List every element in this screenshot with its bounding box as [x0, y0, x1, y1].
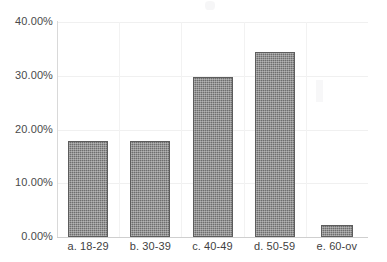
scan-artifact	[205, 1, 215, 10]
x-axis-tick-labels: a. 18-29b. 30-39c. 40-49d. 50-59e. 60-ov	[57, 240, 368, 260]
bar	[130, 141, 170, 237]
y-axis-tick-label: 30.00%	[1, 69, 53, 81]
x-axis-tick-label: a. 18-29	[57, 240, 119, 252]
bar-chart: 40.00%30.00%20.00%10.00%0.00% a. 18-29b.…	[0, 0, 387, 262]
x-axis-tick-label: e. 60-ov	[306, 240, 368, 252]
bar	[193, 77, 233, 237]
y-axis-tick-label: 40.00%	[1, 15, 53, 27]
x-axis-tick-label: c. 40-49	[181, 240, 243, 252]
bar	[68, 141, 108, 237]
x-axis-line	[57, 237, 368, 238]
bar	[255, 52, 295, 237]
bar	[321, 225, 353, 237]
x-axis-tick-label: b. 30-39	[119, 240, 181, 252]
bars-layer	[57, 22, 368, 237]
y-axis-tick-label: 10.00%	[1, 176, 53, 188]
x-axis-tick-label: d. 50-59	[244, 240, 306, 252]
y-axis-tick-labels: 40.00%30.00%20.00%10.00%0.00%	[0, 0, 53, 262]
y-axis-tick-label: 0.00%	[1, 230, 53, 242]
y-axis-tick-label: 20.00%	[1, 123, 53, 135]
